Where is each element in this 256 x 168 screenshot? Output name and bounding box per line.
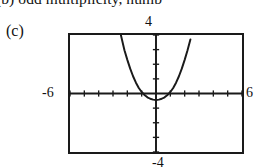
axis-label-xmax: 6 xyxy=(246,86,253,100)
axis-label-xmin: -6 xyxy=(42,86,54,100)
axis-label-ymax: 4 xyxy=(145,15,152,29)
caption-previous-item: (b) odd multiplicity, numb xyxy=(0,0,256,7)
axis-label-ymin: -4 xyxy=(152,156,164,168)
calculator-screen xyxy=(68,33,244,154)
figure-page: (b) odd multiplicity, numb (c) 4 -6 6 -4 xyxy=(0,0,256,168)
plot-area xyxy=(70,35,242,152)
axes-group xyxy=(70,35,242,152)
part-label-c: (c) xyxy=(6,22,24,40)
